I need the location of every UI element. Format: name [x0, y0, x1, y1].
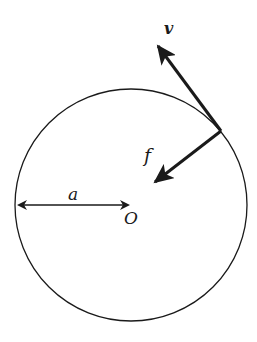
velocity-arrow — [158, 46, 221, 131]
radius-label: a — [68, 184, 78, 204]
center-label: O — [124, 208, 138, 228]
circular-motion-diagram: v f a O — [0, 0, 257, 342]
force-arrow — [155, 131, 221, 182]
force-label: f — [142, 144, 154, 166]
velocity-label: v — [164, 19, 174, 38]
